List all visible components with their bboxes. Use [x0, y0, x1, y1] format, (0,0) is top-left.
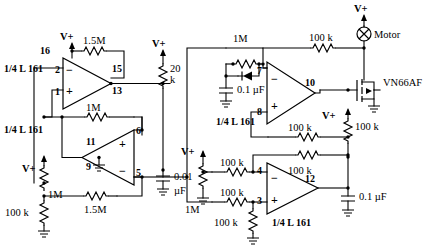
node-1M-left — [42, 115, 45, 118]
wire-a2-out — [62, 117, 82, 158]
resistor-100k-gate — [263, 44, 364, 52]
resistor-100k-left-label: 100 k — [5, 207, 29, 218]
node-1M-mid-left — [42, 181, 45, 184]
opamp-a2-pin-11: 11 — [86, 136, 95, 147]
opamp-a1-pin-15: 15 — [112, 63, 122, 74]
motor-label: Motor — [374, 29, 401, 40]
opamp-a3-pin-10: 10 — [305, 77, 315, 88]
motor — [357, 26, 371, 48]
vplus-gate-label: V+ — [322, 110, 336, 121]
resistor-100k-left — [38, 196, 50, 237]
resistor-20k-unit: k — [170, 74, 176, 85]
resistor-1M-mid — [197, 163, 209, 204]
resistor-1M-a1-fb — [44, 113, 134, 121]
vplus-left-rail — [41, 155, 47, 165]
node-a3-fb-left — [231, 62, 234, 65]
capacitor-0p1uF-a3 — [219, 76, 233, 107]
opamp-a1-plus-sign: + — [66, 84, 73, 98]
vplus-motor-label: V+ — [354, 3, 368, 14]
opamp-a4-pin-3: 3 — [257, 195, 262, 206]
opamp-a1-minus-sign: − — [66, 63, 73, 77]
vplus-gate-rail — [345, 108, 351, 118]
opamp-a4-part-label: 1/4 L 161 — [272, 217, 311, 228]
resistor-1M-mid-label: 1M — [185, 204, 200, 215]
node-a4-fb-rail — [346, 153, 349, 156]
mosfet — [320, 48, 380, 112]
node-20k-out — [161, 82, 164, 85]
resistor-100k-pulldown-label: 100 k — [355, 121, 379, 132]
node-a2-pin6 — [140, 128, 143, 131]
vplus-20k-rail — [160, 49, 166, 63]
resistor-100k-a4-fb-label: 100 k — [288, 165, 312, 176]
resistor-1M-left — [40, 165, 48, 191]
capacitor-0p1uF-a4 — [341, 188, 355, 216]
wire-a2-minus-down — [117, 177, 142, 196]
opamp-a1-pin-13: 13 — [112, 85, 122, 96]
resistor-100k-a3-fb — [268, 133, 348, 141]
node-cap001 — [161, 168, 164, 171]
opamp-a3-part-label: 1/4 L 161 — [216, 116, 255, 127]
resistor-1p5M-top-label: 1.5M — [83, 35, 106, 46]
capacitor-0p01uF-unit: µF — [174, 185, 186, 196]
opamp-a3-minus-sign: − — [271, 72, 278, 86]
schematic-canvas: 1/4 L 161 16 2 1 15 13 − + V+ 1.5M 1M V+… — [0, 0, 423, 248]
capacitor-0p1uF-a3-label: 0.1 µF — [237, 84, 265, 95]
resistor-1M-a1-fb-label: 1M — [86, 102, 101, 113]
opamp-a2-plus-sign: + — [119, 137, 126, 151]
vplus-left-label: V+ — [22, 163, 36, 174]
opamp-a2-pin-9: 9 — [86, 161, 91, 172]
opamp-a3-plus-sign: + — [271, 99, 278, 113]
vplus-motor-rail — [361, 14, 367, 26]
opamp-a2-minus-sign: − — [119, 164, 126, 178]
circuit-svg: 1/4 L 161 16 2 1 15 13 − + V+ 1.5M 1M V+… — [0, 0, 423, 248]
capacitor-0p1uF-a4-label: 0.1 µF — [359, 191, 387, 202]
opamp-a2-pin-5: 5 — [136, 167, 141, 178]
resistor-1M-a3-fb-label: 1M — [233, 33, 248, 44]
node-a1-16 — [70, 49, 73, 52]
vplus-mid-label: V+ — [181, 146, 195, 157]
resistor-100k-a3-fb-label: 100 k — [288, 122, 312, 133]
node-a2-out-1M — [60, 115, 63, 118]
resistor-100k-a4-in-plus-label: 100 k — [220, 187, 244, 198]
node-a1-out — [109, 82, 112, 85]
opamp-a4-minus-sign: − — [271, 171, 278, 185]
resistor-100k-a4-in-minus-label: 100 k — [220, 157, 244, 168]
wire-a3-out-gate — [315, 90, 320, 93]
node-left-branch — [185, 175, 188, 178]
resistor-20k-label: 20 — [170, 63, 181, 74]
resistor-1p5M-bottom-label: 1.5M — [84, 204, 107, 215]
resistor-100k-a4-plus-gnd-label: 100 k — [214, 217, 238, 228]
vplus-20k-label: V+ — [152, 38, 166, 49]
mosfet-label: VN66AF — [383, 77, 422, 88]
opamp-a2-part-label: 1/4 L 161 — [4, 124, 43, 135]
node-diode-right — [257, 62, 260, 65]
opamp-a4-plus-sign: + — [271, 193, 278, 207]
node-gate-pulldown — [346, 88, 349, 91]
resistor-100k-gate-label: 100 k — [309, 32, 333, 43]
resistor-1M-left-label: 1M — [48, 189, 63, 200]
node-a2-pin9 — [97, 156, 100, 159]
vplus-mid-rail — [200, 150, 206, 163]
wire-a1-plus — [44, 90, 63, 117]
resistor-100k-a4-plus-gnd — [247, 202, 259, 244]
capacitor-0p01uF — [156, 170, 170, 195]
opamp-a1-pin-2: 2 — [55, 64, 60, 75]
resistor-100k-a4-in-minus — [212, 168, 253, 176]
opamp-a4-pin-4: 4 — [257, 165, 262, 176]
vplus-a1-label: V+ — [60, 31, 74, 42]
opamp-a1-pin-16: 16 — [40, 45, 50, 56]
opamp-a1-pin-1: 1 — [55, 86, 60, 97]
